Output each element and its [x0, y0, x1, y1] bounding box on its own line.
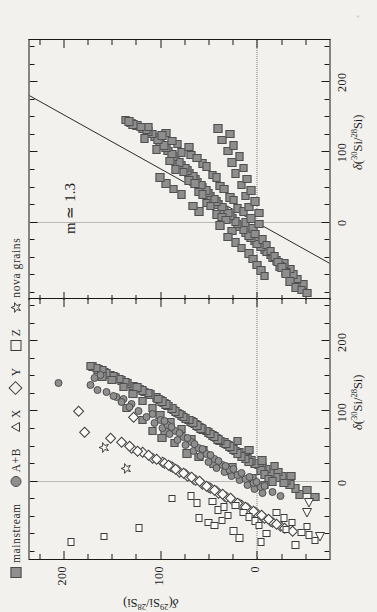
open-diamond-icon [8, 381, 22, 395]
data-point-mainstream [157, 434, 166, 443]
data-point-model-grains [229, 141, 238, 150]
data-point-a-b [93, 386, 101, 394]
data-point-model-grains [250, 197, 259, 206]
data-point-model-grains [206, 202, 215, 211]
data-point-x [298, 507, 316, 518]
data-point-model-grains [155, 173, 164, 182]
data-point-a-b [252, 478, 260, 486]
x-axis-tick [324, 498, 329, 499]
data-point-a-b [148, 410, 156, 418]
x-axis-tick-label: 0 [334, 479, 349, 486]
data-point-model-grains [140, 134, 149, 143]
data-point-model-grains [202, 162, 211, 171]
y-axis-tick [232, 554, 233, 559]
data-point-model-grains [165, 157, 174, 166]
data-point-mainstream [268, 477, 277, 486]
data-point-model-grains [213, 124, 222, 133]
legend-item-mainstream[interactable]: mainstream [9, 503, 21, 578]
y-axis-label: δ(29Si/28Si) [123, 595, 178, 612]
data-point-z [255, 522, 263, 530]
legend-item-ab[interactable]: A+B [9, 448, 21, 487]
data-point-a-b [268, 488, 276, 496]
data-point-nova-grains [120, 463, 133, 474]
y-axis-tick [39, 554, 40, 559]
y-axis-tick [160, 299, 161, 307]
x-axis-tick [29, 533, 34, 534]
y-axis-tick [111, 554, 112, 559]
data-point-model-grains [235, 152, 244, 161]
x-axis-tick [321, 410, 329, 411]
data-point-z [305, 531, 313, 539]
x-axis-tick-label: 200 [334, 72, 349, 92]
data-point-a-b [206, 451, 214, 459]
data-point-model-grains [212, 173, 221, 182]
data-point-model-grains [250, 230, 259, 239]
data-point-nova-grains [98, 442, 111, 453]
y-axis-tick-label: 0 [248, 566, 263, 594]
open-star-icon [10, 302, 21, 313]
data-point-z [280, 515, 288, 523]
data-point-a-b [117, 398, 125, 406]
data-point-mainstream [233, 437, 242, 446]
data-point-model-grains [246, 186, 255, 195]
y-axis-tick [135, 554, 136, 559]
x-axis-tick [29, 410, 37, 411]
data-point-model-grains [169, 185, 178, 194]
data-point-a-b [237, 469, 245, 477]
data-point-z [257, 538, 265, 546]
y-axis-tick [63, 299, 64, 307]
data-point-y [72, 406, 83, 417]
data-point-a-b [260, 482, 268, 490]
legend: mainstream A+B X Y Z [4, 40, 26, 578]
x-axis-tick [29, 305, 34, 306]
x-axis-tick [29, 375, 34, 376]
data-point-model-grains [167, 137, 176, 146]
data-point-mainstream [128, 390, 137, 399]
left-panel-x-axis-label: δ(30Si/28Si) [348, 375, 365, 430]
data-point-model-grains [157, 131, 166, 140]
x-axis-tick [321, 340, 329, 341]
legend-item-x[interactable]: X [9, 409, 21, 432]
legend-label-y: Y [9, 367, 21, 376]
data-point-x [300, 497, 318, 508]
x-axis-tick [29, 516, 34, 517]
data-point-a-b [86, 381, 94, 389]
x-axis-tick [29, 551, 34, 552]
data-point-model-grains [179, 168, 188, 177]
data-point-model-grains [215, 221, 224, 230]
legend-item-y[interactable]: Y [9, 367, 21, 393]
data-point-model-grains [254, 209, 263, 218]
data-point-model-grains [171, 165, 180, 174]
data-point-z [282, 526, 290, 534]
data-point-model-grains [225, 130, 234, 139]
x-axis-tick [324, 428, 329, 429]
x-axis-tick [29, 463, 34, 464]
legend-item-nova[interactable]: nova grains [9, 238, 21, 313]
legend-label-x: X [9, 409, 21, 418]
data-point-mainstream [119, 383, 128, 392]
filled-square-icon [10, 567, 21, 578]
right-panel-axes [28, 39, 330, 300]
x-axis-tick [324, 375, 329, 376]
data-point-z [135, 524, 143, 532]
data-point-model-grains [231, 169, 240, 178]
x-axis-tick-label: 200 [334, 332, 349, 352]
x-axis-tick [29, 393, 34, 394]
legend-item-z[interactable]: Z [9, 329, 21, 352]
y-axis-tick [329, 554, 330, 559]
scan-artifact: • [352, 15, 362, 18]
data-point-a-b [229, 465, 237, 473]
y-axis-tick-label: 100 [151, 566, 166, 594]
y-axis-tick [208, 554, 209, 559]
x-axis-tick-label: 0 [334, 219, 349, 226]
x-axis-tick-label: 100 [334, 403, 349, 423]
data-point-model-grains [192, 154, 201, 163]
x-axis-tick [324, 551, 329, 552]
x-axis-tick [29, 481, 37, 482]
x-axis-tick [29, 428, 34, 429]
data-point-model-grains [177, 190, 186, 199]
data-point-y [79, 427, 90, 438]
x-axis-tick [324, 463, 329, 464]
